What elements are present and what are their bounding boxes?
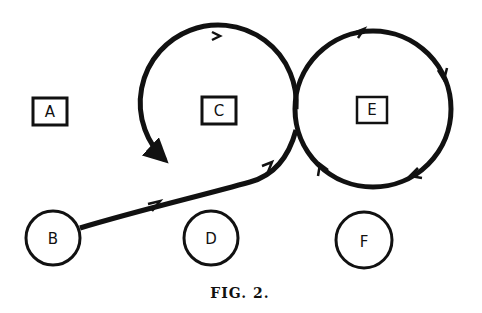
node-c: C: [202, 97, 236, 124]
node-f-label: F: [360, 233, 369, 251]
node-d: D: [184, 211, 238, 265]
node-e-label: E: [367, 101, 376, 119]
node-e: E: [357, 97, 387, 123]
figure-caption: FIG. 2.: [210, 285, 269, 301]
node-b-label: B: [48, 230, 58, 248]
node-a: A: [33, 98, 67, 125]
node-f: F: [336, 212, 392, 268]
node-d-label: D: [205, 230, 217, 248]
figure-canvas: A C E B D F FIG. 2.: [0, 0, 482, 313]
path-b-to-crossing: [80, 130, 296, 228]
node-a-label: A: [45, 103, 56, 121]
direction-tick-icon: [212, 32, 220, 40]
loop-around-c: [140, 25, 296, 160]
node-b: B: [26, 211, 80, 265]
node-c-label: C: [214, 102, 224, 120]
